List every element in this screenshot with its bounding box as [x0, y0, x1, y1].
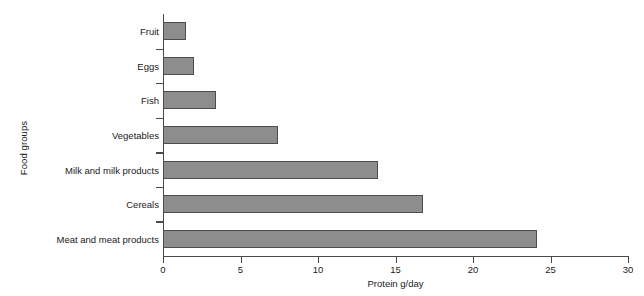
bar-chart: Food groups FruitEggsFishVegetablesMilk …	[0, 0, 644, 296]
bar	[163, 57, 194, 75]
bar	[163, 22, 186, 40]
x-axis-tick-label: 0	[143, 264, 183, 275]
category-label: Milk and milk products	[65, 164, 159, 175]
bar-row: Fruit	[163, 22, 186, 40]
x-axis-tick-label: 25	[531, 264, 571, 275]
y-axis-tick	[156, 187, 163, 188]
x-axis-tick-label: 10	[298, 264, 338, 275]
x-axis-tick	[163, 256, 164, 263]
bar-row: Eggs	[163, 57, 194, 75]
x-axis-tick	[396, 256, 397, 263]
x-axis-tick	[473, 256, 474, 263]
category-label: Eggs	[137, 60, 159, 71]
category-label: Cereals	[126, 199, 159, 210]
bar	[163, 230, 537, 248]
bar	[163, 126, 278, 144]
x-axis-tick	[551, 256, 552, 263]
category-label: Meat and meat products	[57, 233, 159, 244]
x-axis-tick-label: 30	[608, 264, 644, 275]
x-axis-tick-label: 15	[376, 264, 416, 275]
bar	[163, 161, 378, 179]
x-axis-tick	[318, 256, 319, 263]
category-label: Fruit	[140, 26, 159, 37]
y-axis-tick	[156, 221, 163, 222]
category-label: Vegetables	[112, 130, 159, 141]
y-axis-tick	[156, 49, 163, 50]
bar-row: Vegetables	[163, 126, 278, 144]
bar-row: Cereals	[163, 195, 423, 213]
y-axis-tick	[156, 83, 163, 84]
bar	[163, 195, 423, 213]
bar-row: Milk and milk products	[163, 161, 378, 179]
plot-area: FruitEggsFishVegetablesMilk and milk pro…	[163, 14, 628, 256]
x-axis-title: Protein g/day	[163, 278, 628, 289]
bar-row: Fish	[163, 91, 216, 109]
bar	[163, 91, 216, 109]
y-axis-tick	[156, 152, 163, 153]
y-axis-tick	[156, 118, 163, 119]
bar-row: Meat and meat products	[163, 230, 537, 248]
x-axis-tick-label: 5	[221, 264, 261, 275]
y-axis-title: Food groups	[16, 0, 32, 296]
x-axis-tick-label: 20	[453, 264, 493, 275]
x-axis-tick	[241, 256, 242, 263]
category-label: Fish	[141, 95, 159, 106]
x-axis-tick	[628, 256, 629, 263]
